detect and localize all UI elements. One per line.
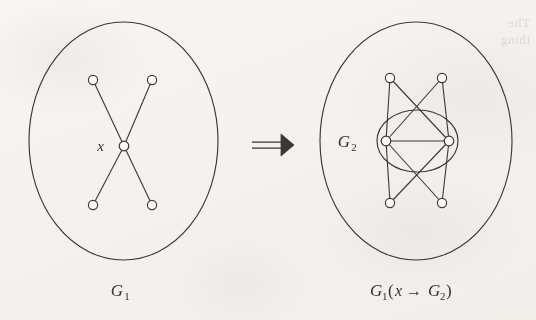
left-graph-vertex-label: x — [96, 138, 104, 154]
node-outer-top-left — [385, 73, 394, 82]
node-leaf-bottom-left — [88, 200, 97, 209]
left-graph-caption: G 1 — [111, 281, 130, 302]
g2-inner-label-base: G — [338, 132, 350, 151]
node-leaf-top-left — [88, 75, 97, 84]
left-graph-group: x G 1 — [29, 22, 218, 302]
edge-centre-to-bottom-right — [124, 146, 152, 205]
implies-arrow-head — [281, 134, 294, 156]
node-g2-right — [444, 136, 454, 146]
node-outer-top-right — [437, 73, 446, 82]
g2-inner-label-subscript: 2 — [351, 141, 357, 153]
right-caption-arrow: → — [406, 282, 422, 299]
node-centre-x — [119, 141, 129, 151]
node-outer-bottom-right — [437, 198, 446, 207]
edge-outer-top-left-to-g2-left — [386, 78, 390, 141]
edge-centre-to-top-right — [124, 80, 152, 146]
right-caption-arg-subscript: 2 — [440, 290, 446, 302]
right-caption-arg-base: G — [428, 281, 440, 300]
edge-outer-bottom-left-to-g2-left — [386, 141, 390, 203]
figure-page: The thing — [0, 0, 536, 320]
right-graph-edges — [386, 78, 449, 203]
right-caption-g1-base: G — [370, 281, 382, 300]
left-graph-caption-subscript: 1 — [124, 290, 130, 302]
edge-outer-bottom-right-to-g2-right — [442, 141, 449, 203]
node-g2-left — [381, 136, 391, 146]
node-outer-bottom-left — [385, 198, 394, 207]
left-graph-caption-base: G — [111, 281, 123, 300]
implies-arrow-group — [252, 134, 294, 156]
right-caption-arg-vertex: x — [394, 282, 402, 299]
right-caption-close-paren: ) — [446, 281, 452, 300]
right-graph-group: G 2 G 1 ( x → G 2 ) — [320, 22, 512, 302]
right-caption-open-paren: ( — [388, 281, 394, 300]
node-leaf-top-right — [147, 75, 156, 84]
right-caption-g1-subscript: 1 — [382, 290, 388, 302]
right-graph-caption: G 1 ( x → G 2 ) — [370, 281, 452, 302]
edge-centre-to-top-left — [93, 80, 124, 146]
node-leaf-bottom-right — [147, 200, 156, 209]
edge-outer-top-right-to-g2-left — [386, 78, 442, 141]
edge-outer-top-right-to-g2-right — [442, 78, 449, 141]
graph-substitution-figure: x G 1 — [0, 0, 536, 320]
g2-inner-label: G 2 — [338, 132, 357, 153]
edge-centre-to-bottom-left — [93, 146, 124, 205]
